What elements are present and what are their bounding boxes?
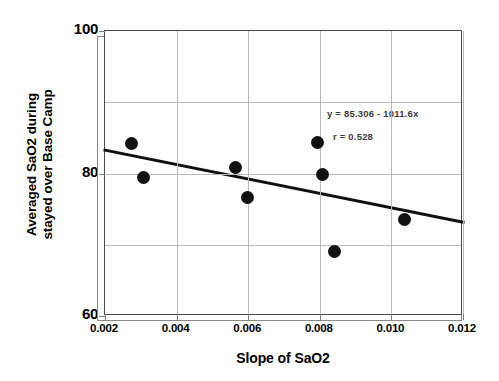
data-point: [398, 213, 411, 226]
regression-annotation: y = 85.306 - 1011.6x r = 0.528: [327, 109, 418, 141]
scatter-chart-figure: Averaged SaO2 during stayed over Base Ca…: [0, 0, 499, 381]
plot-area: y = 85.306 - 1011.6x r = 0.528: [104, 30, 462, 315]
y-gridline: [105, 245, 461, 246]
x-axis-tick-label: 0.010: [355, 322, 425, 334]
regression-equation-text: y = 85.306 - 1011.6x: [327, 109, 418, 119]
y-axis-title-line1: Averaged SaO2 during: [24, 93, 39, 236]
y-tick-mark: [99, 316, 105, 317]
x-axis-tick-labels: 0.0020.0040.0060.0080.0100.012: [104, 322, 462, 342]
x-tick-mark: [391, 314, 392, 320]
x-tick-mark: [105, 314, 106, 320]
y-gridline: [105, 102, 461, 103]
data-point: [311, 136, 324, 149]
data-point: [137, 171, 150, 184]
x-axis-tick-label: 0.008: [284, 322, 354, 334]
x-axis-title: Slope of SaO2: [104, 350, 462, 366]
x-gridline: [463, 31, 464, 314]
x-gridline: [248, 31, 249, 314]
axis-left-wall: [97, 36, 104, 321]
x-axis-tick-label: 0.002: [69, 322, 139, 334]
y-axis-tick-label: 80: [54, 163, 98, 180]
x-tick-mark: [248, 314, 249, 320]
x-axis-tick-label: 0.012: [427, 322, 497, 334]
x-axis-tick-label: 0.006: [212, 322, 282, 334]
correlation-coefficient-text: r = 0.528: [333, 132, 418, 142]
data-point: [229, 161, 242, 174]
x-gridline: [177, 31, 178, 314]
y-tick-mark: [99, 174, 105, 175]
x-gridline: [391, 31, 392, 314]
y-axis-tick-label: 100: [54, 20, 98, 37]
y-gridline: [105, 174, 461, 175]
x-tick-mark: [320, 314, 321, 320]
y-axis-tick-label: 60: [54, 305, 98, 322]
data-point: [328, 245, 341, 258]
x-axis-tick-label: 0.004: [141, 322, 211, 334]
trendline-line: [105, 150, 463, 222]
x-tick-mark: [463, 314, 464, 320]
x-tick-mark: [177, 314, 178, 320]
data-point: [125, 137, 138, 150]
y-tick-mark: [99, 31, 105, 32]
